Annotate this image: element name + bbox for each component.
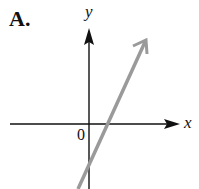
x-axis: [10, 119, 180, 129]
graph-figure: A. y x 0: [0, 0, 199, 189]
graph-canvas: [0, 0, 199, 189]
